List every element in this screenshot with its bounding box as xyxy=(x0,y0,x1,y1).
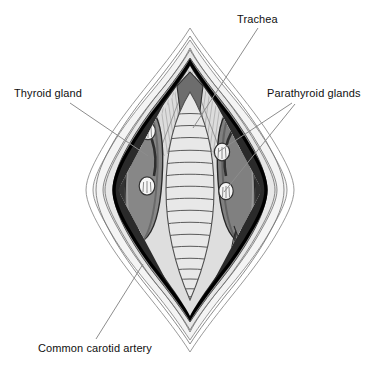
label-parathyroid-glands: Parathyroid glands xyxy=(267,87,361,99)
label-common-carotid-artery: Common carotid artery xyxy=(38,342,152,354)
parathyroid-gland-left-inferior xyxy=(139,177,155,195)
anatomy-illustration xyxy=(0,0,379,374)
label-thyroid-gland: Thyroid gland xyxy=(14,87,82,99)
parathyroid-gland-right-inferior xyxy=(219,182,233,199)
label-trachea: Trachea xyxy=(237,13,278,25)
anatomy-figure: Trachea Thyroid gland Parathyroid glands… xyxy=(0,0,379,374)
